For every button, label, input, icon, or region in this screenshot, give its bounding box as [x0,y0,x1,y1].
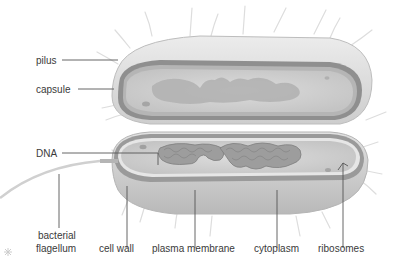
label-dna: DNA [36,148,57,159]
cell-top-half [112,36,372,124]
label-pilus: pilus [36,55,57,66]
bacterial-cell-diagram: pilus capsule DNA bacterial flagellum ce… [0,0,394,274]
label-capsule: capsule [36,84,70,95]
label-flagellum: flagellum [36,243,76,254]
label-ribosomes: ribosomes [318,243,364,254]
decorative-burst-icon [4,248,12,256]
label-cytoplasm: cytoplasm [254,243,299,254]
label-cell-wall: cell wall [99,243,134,254]
cell-bottom-half [112,132,368,214]
label-bacterial: bacterial [38,230,76,241]
label-plasma-membrane: plasma membrane [152,243,235,254]
flagellum [0,160,114,198]
